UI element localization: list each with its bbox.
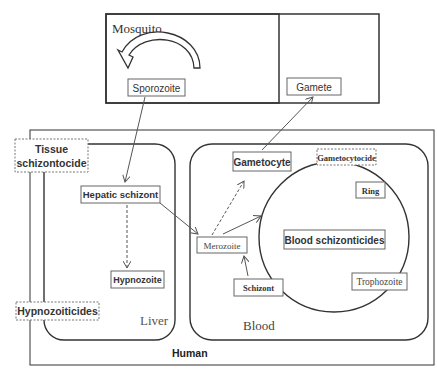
arrow-hepatic-merozoite: [160, 203, 198, 234]
arrow-merozoite-circle: [223, 216, 261, 234]
gametocyte-label: Gametocyte: [233, 157, 291, 168]
blood-schizonticides-label: Blood schizonticides: [284, 235, 384, 246]
gamete-label: Gamete: [296, 82, 332, 93]
arrow-sporozoite-hepatic: [125, 97, 145, 182]
ring-label: Ring: [362, 186, 380, 196]
drug-gametocytocide: Gametocytocide: [317, 149, 376, 165]
node-hepatic-schizont: Hepatic schizont: [81, 186, 160, 203]
drug-tissue-schizontocide: Tissue schizontocide: [15, 139, 88, 172]
hypnozoite-label: Hypnozoite: [113, 275, 162, 285]
hypnozoiticides-label: Hypnozoiticides: [17, 305, 98, 317]
sporozoite-label: Sporozoite: [133, 83, 181, 94]
node-gametocyte: Gametocyte: [233, 152, 291, 171]
human-label: Human: [172, 347, 208, 359]
liver-label: Liver: [140, 313, 169, 328]
drug-hypnozoiticides: Hypnozoiticides: [16, 302, 99, 320]
blood-label: Blood: [243, 318, 275, 333]
node-sporozoite: Sporozoite: [128, 79, 185, 96]
node-blood-schizonticides: Blood schizonticides: [284, 230, 385, 249]
node-merozoite: Merozoite: [197, 237, 247, 253]
gametocytocide-label: Gametocytocide: [317, 153, 376, 163]
node-hypnozoite: Hypnozoite: [111, 271, 164, 288]
node-ring: Ring: [356, 182, 385, 198]
malaria-lifecycle-diagram: Mosquito Sporozoite Gamete Human Liver B…: [0, 0, 437, 379]
node-trophozoite: Trophozoite: [352, 273, 407, 290]
merozoite-label: Merozoite: [204, 241, 241, 251]
arrow-schizont-merozoite: [244, 256, 248, 276]
arrow-gametocyte-gamete: [262, 97, 313, 150]
node-schizont: Schizont: [234, 279, 283, 296]
node-gamete: Gamete: [287, 78, 341, 95]
schizont-label: Schizont: [243, 283, 274, 293]
arrow-merozoite-gametocyte: [212, 181, 244, 235]
hepatic-schizont-label: Hepatic schizont: [83, 189, 159, 200]
tissue-label-line1: Tissue: [35, 143, 68, 155]
trophozoite-label: Trophozoite: [356, 277, 402, 287]
tissue-label-line2: schizontocide: [16, 157, 86, 169]
